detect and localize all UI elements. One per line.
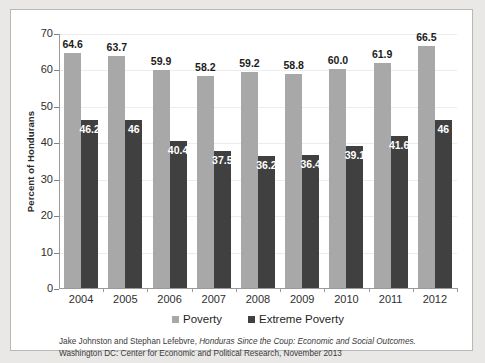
x-axis-line (59, 288, 457, 289)
bar-group: 61.941.6 (369, 33, 413, 288)
y-axis-tick-label: 70 (29, 27, 53, 39)
bar-extreme-poverty[interactable]: 46 (435, 120, 452, 288)
bar-value-label: 39.1 (345, 149, 365, 161)
x-axis-tick-label: 2009 (280, 293, 324, 305)
bar-poverty[interactable]: 58.2 (197, 76, 214, 288)
bar-value-label: 37.5 (212, 154, 232, 166)
bar-poverty[interactable]: 61.9 (374, 63, 391, 288)
bar-poverty[interactable]: 59.9 (153, 70, 170, 288)
bar-extreme-poverty[interactable]: 36.4 (302, 155, 319, 288)
bar-poverty[interactable]: 58.8 (285, 74, 302, 288)
bar-value-label: 40.4 (168, 144, 188, 156)
x-axis-tick-mark (457, 288, 458, 292)
x-axis-tick-mark (192, 288, 193, 292)
legend-label: Poverty (183, 313, 222, 325)
bar-group: 59.236.2 (236, 33, 280, 288)
bar-extreme-poverty[interactable]: 36.2 (258, 156, 275, 288)
y-axis-tick-mark (54, 289, 59, 290)
legend-label: Extreme Poverty (259, 313, 344, 325)
bar-extreme-poverty[interactable]: 46.2 (81, 120, 98, 288)
bar-extreme-poverty[interactable]: 41.6 (391, 136, 408, 288)
bar-group: 58.237.5 (192, 33, 236, 288)
bar-value-label: 46 (128, 123, 140, 135)
bar-poverty[interactable]: 64.6 (64, 53, 81, 288)
y-axis-tick-label: 10 (29, 246, 53, 258)
y-axis-tick-label: 0 (29, 282, 53, 294)
bar-poverty[interactable]: 63.7 (108, 56, 125, 288)
x-axis-tick-label: 2007 (192, 293, 236, 305)
bar-group: 60.039.1 (324, 33, 368, 288)
legend-item[interactable]: Extreme Poverty (248, 313, 344, 325)
chart-legend: PovertyExtreme Poverty (59, 313, 457, 325)
legend-item[interactable]: Poverty (172, 313, 222, 325)
x-axis-tick-mark (413, 288, 414, 292)
x-axis-tick-mark (236, 288, 237, 292)
caption-line1-pre: Jake Johnston and Stephan Lefebvre, (59, 337, 199, 346)
bar-poverty[interactable]: 59.2 (241, 72, 258, 288)
bar-value-label: 46.2 (79, 123, 99, 135)
bar-value-label: 63.7 (107, 41, 127, 53)
y-axis-tick-label: 50 (29, 100, 53, 112)
bar-group: 58.836.4 (280, 33, 324, 288)
bar-extreme-poverty[interactable]: 46 (125, 120, 142, 288)
caption-line2: Washington DC: Center for Economic and P… (59, 349, 342, 358)
bar-group: 59.940.4 (147, 33, 191, 288)
bar-value-label: 58.8 (284, 59, 304, 71)
bar-group: 63.746 (103, 33, 147, 288)
x-axis-tick-mark (280, 288, 281, 292)
plot-area: Percent of Hondurans 010203040506070 64.… (59, 34, 457, 289)
bar-extreme-poverty[interactable]: 40.4 (170, 141, 187, 288)
chart-figure: Percent of Hondurans 010203040506070 64.… (10, 9, 473, 351)
bar-value-label: 46 (438, 123, 450, 135)
x-axis-tick-label: 2006 (147, 293, 191, 305)
bar-extreme-poverty[interactable]: 39.1 (346, 146, 363, 288)
bar-value-label: 36.4 (301, 158, 321, 170)
y-axis-tick-label: 40 (29, 136, 53, 148)
x-axis-tick-label: 2008 (236, 293, 280, 305)
bar-value-label: 36.2 (256, 159, 276, 171)
bar-poverty[interactable]: 66.5 (418, 46, 435, 288)
bar-value-label: 59.2 (239, 57, 259, 69)
bar-value-label: 60.0 (328, 54, 348, 66)
x-axis-tick-label: 2010 (324, 293, 368, 305)
x-axis-tick-mark (369, 288, 370, 292)
x-axis-tick-label: 2004 (59, 293, 103, 305)
y-axis-tick-label: 30 (29, 173, 53, 185)
x-axis-tick-mark (103, 288, 104, 292)
x-axis-tick-mark (324, 288, 325, 292)
bar-value-label: 66.5 (416, 31, 436, 43)
x-axis-tick-mark (147, 288, 148, 292)
bar-value-label: 64.6 (62, 38, 82, 50)
caption-line1-italic: Honduras Since the Coup: Economic and So… (199, 337, 416, 346)
y-axis-tick-label: 20 (29, 209, 53, 221)
bar-poverty[interactable]: 60.0 (329, 69, 346, 288)
legend-swatch-icon (248, 316, 255, 323)
bar-group: 64.646.2 (59, 33, 103, 288)
bar-value-label: 61.9 (372, 48, 392, 60)
bar-value-label: 41.6 (389, 139, 409, 151)
bar-extreme-poverty[interactable]: 37.5 (214, 151, 231, 288)
x-axis-tick-label: 2012 (413, 293, 457, 305)
legend-swatch-icon (172, 316, 179, 323)
y-axis-tick-label: 60 (29, 63, 53, 75)
x-axis-tick-label: 2011 (369, 293, 413, 305)
bar-group: 66.546 (413, 33, 457, 288)
bar-value-label: 58.2 (195, 61, 215, 73)
x-axis-tick-label: 2005 (103, 293, 147, 305)
bar-value-label: 59.9 (151, 55, 171, 67)
source-caption: Jake Johnston and Stephan Lefebvre, Hond… (59, 336, 459, 360)
